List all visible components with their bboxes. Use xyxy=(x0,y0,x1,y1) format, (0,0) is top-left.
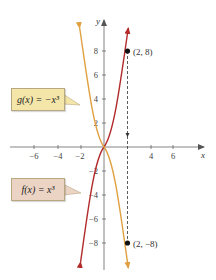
point-label-bottom: (2, −8) xyxy=(133,239,158,249)
svg-text:−6: −6 xyxy=(29,151,38,161)
f-callout-pointer xyxy=(63,184,81,195)
curve-f-x-cubed xyxy=(81,28,129,262)
svg-text:−2: −2 xyxy=(75,151,84,161)
svg-text:8: 8 xyxy=(94,46,98,56)
point-label-top: (2, 8) xyxy=(133,47,153,57)
point-2-8 xyxy=(125,48,130,53)
graph-canvas: −6 −4 −2 4 6 x 8 6 4 2 −2 −4 −6 −8 y (2,… xyxy=(0,0,216,280)
svg-text:4: 4 xyxy=(149,151,154,161)
svg-text:6: 6 xyxy=(171,151,175,161)
x-axis-label: x xyxy=(200,150,205,160)
f-function-label: f(x) = x³ xyxy=(11,178,65,201)
g-function-label: g(x) = −x³ xyxy=(11,88,65,111)
down-arrow-icon xyxy=(126,133,130,137)
svg-text:6: 6 xyxy=(94,70,98,80)
g-callout-pointer xyxy=(63,94,80,105)
svg-text:4: 4 xyxy=(94,94,99,104)
svg-text:−8: −8 xyxy=(89,238,98,248)
svg-text:−6: −6 xyxy=(89,214,98,224)
svg-text:−4: −4 xyxy=(53,151,63,161)
x-tick-labels: −6 −4 −2 4 6 xyxy=(29,151,175,161)
point-2-neg8 xyxy=(125,240,130,245)
y-axis-label: y xyxy=(95,16,100,26)
